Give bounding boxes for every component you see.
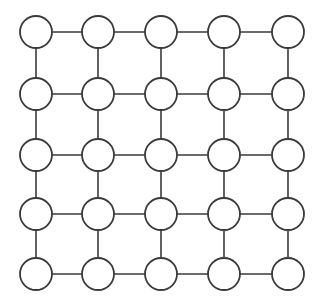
graph-node	[208, 258, 240, 290]
graph-node	[20, 139, 52, 171]
grid-graph-diagram	[0, 0, 320, 305]
graph-node	[272, 198, 304, 230]
graph-node	[208, 78, 240, 110]
graph-node	[145, 258, 177, 290]
graph-node	[145, 78, 177, 110]
graph-node	[145, 198, 177, 230]
graph-node	[272, 78, 304, 110]
graph-node	[208, 198, 240, 230]
graph-node	[145, 139, 177, 171]
graph-node	[272, 139, 304, 171]
graph-node	[272, 16, 304, 48]
graph-node	[20, 78, 52, 110]
graph-node	[82, 258, 114, 290]
graph-node	[20, 258, 52, 290]
graph-node	[208, 16, 240, 48]
graph-node	[82, 198, 114, 230]
graph-node	[82, 139, 114, 171]
graph-node	[20, 16, 52, 48]
graph-node	[82, 16, 114, 48]
graph-node	[82, 78, 114, 110]
nodes-layer	[20, 16, 304, 290]
graph-node	[272, 258, 304, 290]
graph-node	[208, 139, 240, 171]
graph-node	[145, 16, 177, 48]
graph-node	[20, 198, 52, 230]
